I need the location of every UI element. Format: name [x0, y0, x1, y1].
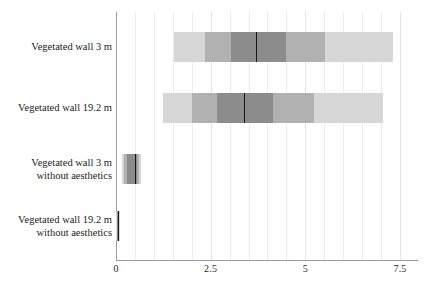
interval-strip	[116, 211, 400, 241]
median-line	[244, 93, 245, 123]
x-tick-label: 2.5	[204, 263, 217, 274]
plot-area	[116, 12, 400, 260]
x-tick-label: 0	[113, 263, 118, 274]
x-tick-label: 5	[303, 263, 308, 274]
interval-strip	[116, 154, 400, 184]
gridline	[400, 12, 401, 260]
y-category-label: Vegetated wall 19.2 m	[2, 102, 112, 115]
x-tick-label: 7.5	[393, 263, 406, 274]
interval-strip	[116, 93, 400, 123]
interval-band-inner	[231, 32, 286, 62]
y-category-label: Vegetated wall 3 m without aesthetics	[2, 157, 112, 182]
interval-strip	[116, 32, 400, 62]
median-line	[256, 32, 257, 62]
median-line	[135, 154, 136, 184]
y-category-label: Vegetated wall 19.2 m without aesthetics	[2, 214, 112, 239]
x-axis-line	[116, 260, 418, 261]
median-line	[118, 211, 119, 241]
interval-band-inner	[217, 93, 273, 123]
interval-chart: 02.557.5 Vegetated wall 3 mVegetated wal…	[0, 0, 437, 286]
y-category-label: Vegetated wall 3 m	[2, 41, 112, 54]
